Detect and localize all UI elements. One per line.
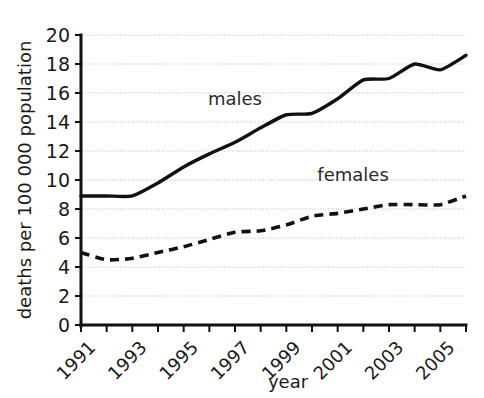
y-tick-label: 12 [46,140,70,162]
x-tick-label: 1997 [206,337,253,384]
y-tick-label: 6 [58,227,70,249]
x-tick-label: 1991 [52,337,99,384]
x-axis-title: year [268,371,309,392]
x-tick-label: 2003 [360,337,407,384]
x-axis-group: 19911993199519971999200120032005 [52,325,466,384]
chart-container: 02468101214161820 1991199319951997199920… [0,0,484,398]
series-annotations: malesfemales [208,88,389,186]
x-tick-label: 1993 [104,337,151,384]
y-axis-tick-labels: 02468101214161820 [46,24,70,336]
x-tick-label: 2001 [309,337,356,384]
y-tick-label: 4 [58,256,70,278]
y-tick-label: 20 [46,24,70,46]
line-chart: 02468101214161820 1991199319951997199920… [0,0,484,398]
y-axis-title: deaths per 100 000 population [14,41,35,320]
series-line-females [81,196,466,260]
y-tick-label: 18 [46,53,70,75]
x-tick-label: 2005 [412,337,459,384]
y-tick-label: 8 [58,198,70,220]
y-tick-label: 0 [58,314,70,336]
y-tick-label: 2 [58,285,70,307]
series-line-males [81,55,466,196]
y-tick-label: 14 [46,111,70,133]
series-label-males: males [208,88,262,109]
y-tick-label: 16 [46,82,70,104]
series-label-females: females [317,164,388,185]
y-axis-group: 02468101214161820 [46,24,81,336]
y-tick-label: 10 [46,169,70,191]
gridlines-group [81,35,466,296]
x-axis-tick-labels: 19911993199519971999200120032005 [52,337,459,384]
x-tick-label: 1995 [155,337,202,384]
series-group [81,55,466,260]
